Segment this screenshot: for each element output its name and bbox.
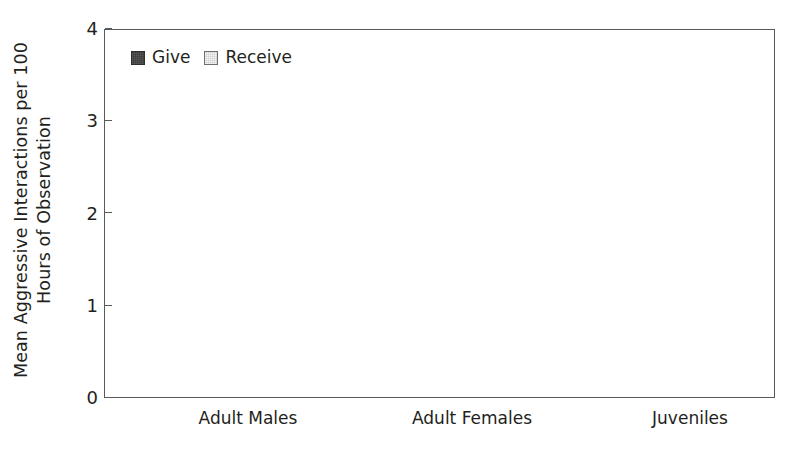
legend: Give Receive	[131, 49, 292, 66]
y-tick-label-4: 4	[68, 20, 98, 38]
y-axis-title-line1: Mean Aggressive Interactions per 100	[11, 42, 31, 378]
plot-area: Give Receive	[104, 29, 775, 398]
plot-series-container	[105, 30, 774, 397]
y-axis-title: Mean Aggressive Interactions per 100 Hou…	[0, 0, 66, 420]
legend-item-give[interactable]: Give	[131, 49, 190, 66]
y-axis-title-line2: Hours of Observation	[33, 42, 56, 378]
x-axis-label-adult-females: Adult Females	[412, 409, 532, 428]
x-axis-label-juveniles: Juveniles	[652, 409, 728, 428]
y-tick-label-1: 1	[68, 297, 98, 315]
y-tick-mark-0	[105, 397, 112, 398]
legend-label-give: Give	[152, 49, 190, 66]
y-tick-mark-1	[105, 305, 112, 306]
y-tick-label-2: 2	[68, 205, 98, 223]
legend-item-receive[interactable]: Receive	[204, 49, 292, 66]
legend-label-receive: Receive	[225, 49, 292, 66]
legend-swatch-receive-icon	[204, 51, 218, 65]
x-axis-label-adult-males: Adult Males	[199, 409, 298, 428]
y-tick-label-0: 0	[68, 389, 98, 407]
y-tick-mark-3	[105, 120, 112, 121]
y-axis-tick-labels: 0 1 2 3 4	[62, 29, 98, 398]
y-tick-mark-2	[105, 212, 112, 213]
bar-chart-figure: Mean Aggressive Interactions per 100 Hou…	[0, 0, 803, 453]
y-tick-label-3: 3	[68, 112, 98, 130]
legend-swatch-give-icon	[131, 51, 145, 65]
y-tick-mark-4	[105, 28, 112, 29]
